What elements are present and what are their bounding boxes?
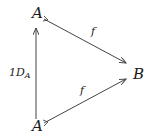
label-identity: 1DA	[9, 67, 31, 80]
commutative-diagram: A B A f f 1DA	[0, 0, 151, 138]
node-a-bottom: A	[32, 119, 43, 134]
node-a-top: A	[32, 6, 43, 21]
label-f-bottom: f	[80, 85, 84, 96]
label-identity-subscript: A	[25, 71, 31, 80]
arrow-f-top	[43, 16, 126, 63]
label-f-top: f	[91, 26, 95, 37]
node-b: B	[133, 67, 144, 82]
arrow-f-bottom	[43, 79, 126, 126]
label-identity-main: 1D	[9, 66, 25, 79]
